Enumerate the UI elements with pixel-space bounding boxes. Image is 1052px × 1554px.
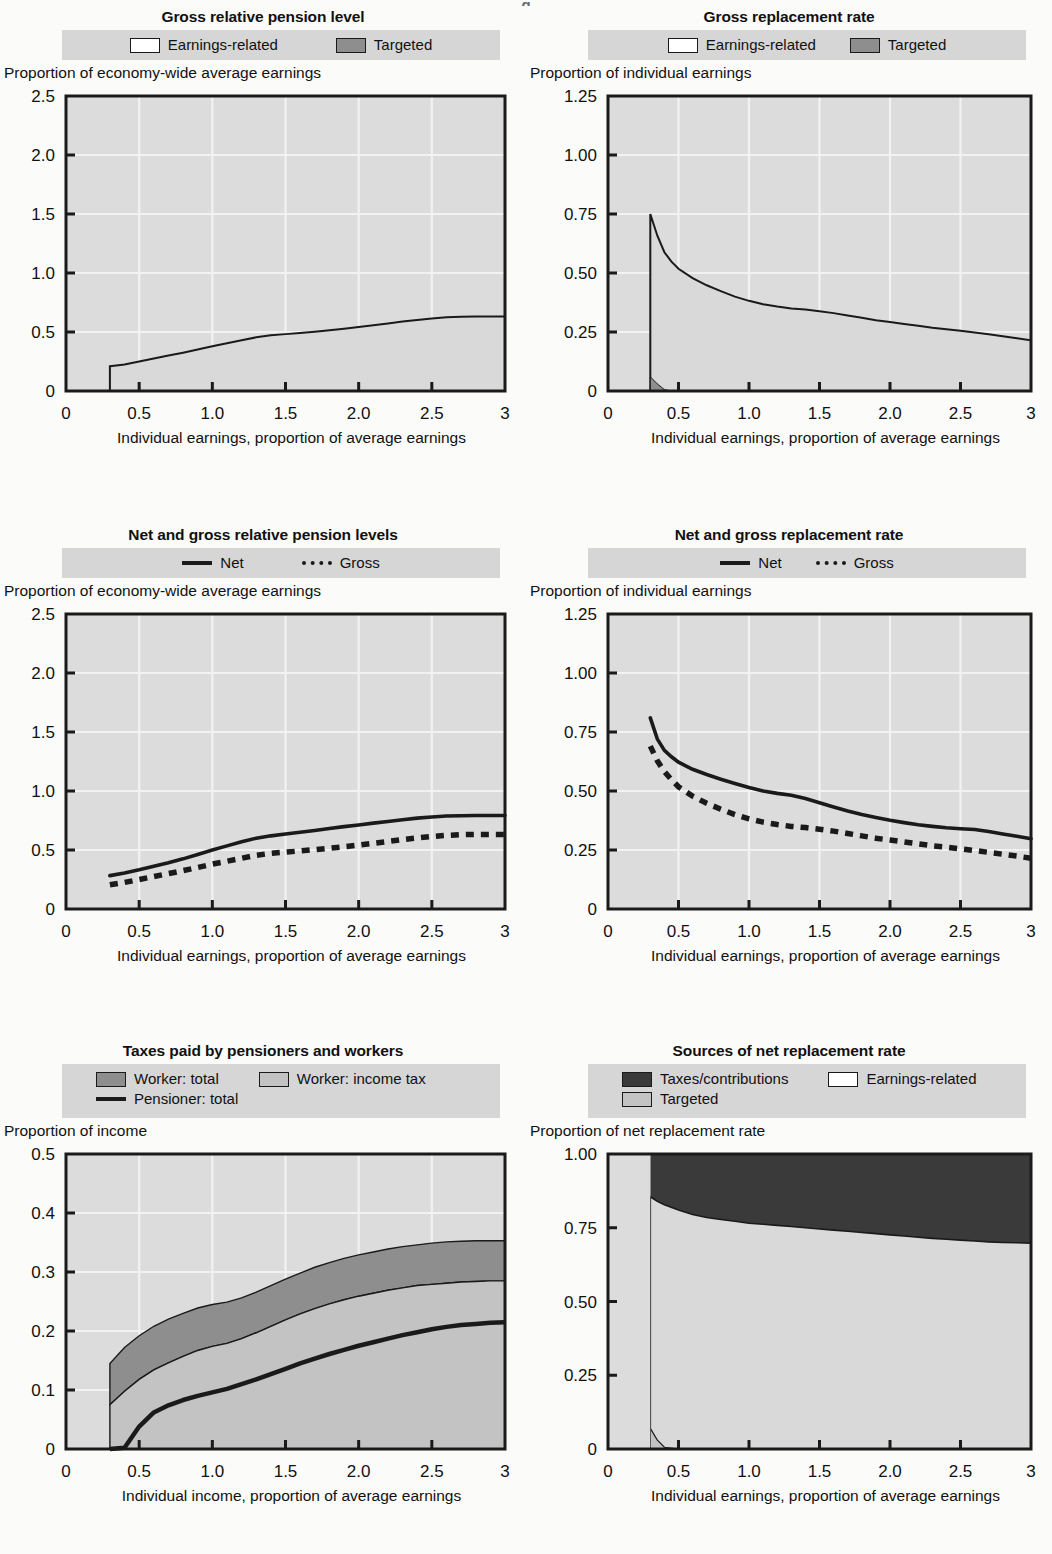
x-tick-label: 1.0 (201, 404, 225, 423)
x-axis-title: Individual earnings, proportion of avera… (117, 429, 466, 446)
x-axis-title: Individual earnings, proportion of avera… (651, 1487, 1000, 1504)
legend-label: Worker: total (134, 1069, 219, 1089)
x-tick-label: 0 (61, 404, 70, 423)
legend-item: Taxes/contributions (622, 1069, 788, 1089)
x-tick-label: 1.5 (808, 922, 832, 941)
x-tick-label: 3 (500, 1462, 509, 1481)
legend-label: Targeted (888, 35, 946, 55)
x-tick-label: 0.5 (667, 922, 691, 941)
y-tick-label: 0 (46, 382, 55, 401)
legend-item: Earnings-related (130, 35, 278, 55)
legend-swatch-icon (96, 1072, 126, 1087)
y-tick-label: 0.50 (564, 264, 597, 283)
x-tick-label: 2.5 (949, 404, 973, 423)
chart-panel-taxes-paid-by-pensioners-and-workers: Taxes paid by pensioners and workersWork… (0, 1034, 526, 1532)
y-tick-label: 0 (588, 900, 597, 919)
legend-label: Pensioner: total (134, 1089, 238, 1109)
x-tick-label: 2.5 (420, 1462, 444, 1481)
chart-plot-gross-replacement-rate: 00.250.500.751.001.2500.51.01.52.02.53In… (526, 86, 1052, 486)
y-tick-label: 0.5 (31, 1145, 55, 1164)
x-tick-label: 3 (1026, 404, 1035, 423)
y-tick-label: 0.3 (31, 1263, 55, 1282)
chart-title: Net and gross relative pension levels (0, 518, 526, 546)
legend-swatch-icon (668, 38, 698, 53)
x-tick-label: 3 (1026, 922, 1035, 941)
x-tick-label: 1.0 (201, 922, 225, 941)
x-tick-label: 2.0 (878, 404, 902, 423)
y-tick-label: 0.4 (31, 1204, 55, 1223)
x-tick-label: 0.5 (127, 404, 151, 423)
y-tick-label: 0 (46, 900, 55, 919)
y-tick-label: 1.25 (564, 605, 597, 624)
chart-panel-net-and-gross-replacement-rate: Net and gross replacement rateNetGrossPr… (526, 518, 1052, 1016)
y-tick-label: 0.25 (564, 1366, 597, 1385)
y-tick-label: 1.0 (31, 264, 55, 283)
y-axis-caption: Proportion of individual earnings (530, 64, 751, 82)
x-tick-label: 0 (61, 1462, 70, 1481)
y-tick-label: 0 (588, 382, 597, 401)
x-tick-label: 0.5 (667, 404, 691, 423)
legend-item: Gross (302, 553, 380, 573)
legend-item: Earnings-related (828, 1069, 976, 1089)
legend-dashed-line-icon (302, 561, 332, 565)
legend-item: Net (720, 553, 781, 573)
x-tick-label: 1.5 (808, 1462, 832, 1481)
y-tick-label: 0.5 (31, 841, 55, 860)
chart-plot-sources-of-net-replacement-rate: 00.250.500.751.0000.51.01.52.02.53Indivi… (526, 1144, 1052, 1544)
x-tick-label: 0.5 (127, 922, 151, 941)
x-tick-label: 1.5 (274, 1462, 298, 1481)
chart-title: Taxes paid by pensioners and workers (0, 1034, 526, 1062)
figure-page: g Gross relative pension levelEarnings-r… (0, 0, 1052, 1554)
legend-label: Gross (340, 553, 380, 573)
legend-item: Earnings-related (668, 35, 816, 55)
chart-plot-taxes-paid-by-pensioners-and-workers: 00.10.20.30.40.500.51.01.52.02.53Individ… (0, 1144, 526, 1544)
chart-panel-gross-replacement-rate: Gross replacement rateEarnings-relatedTa… (526, 0, 1052, 498)
legend-label: Gross (854, 553, 894, 573)
legend-swatch-icon (828, 1072, 858, 1087)
y-tick-label: 0 (588, 1440, 597, 1459)
chart-title: Net and gross replacement rate (526, 518, 1052, 546)
y-axis-caption: Proportion of income (4, 1122, 147, 1140)
x-tick-label: 2.5 (420, 404, 444, 423)
y-axis-caption: Proportion of economy-wide average earni… (4, 64, 321, 82)
x-tick-label: 2.5 (949, 1462, 973, 1481)
legend-swatch-icon (336, 38, 366, 53)
x-tick-label: 0 (603, 404, 612, 423)
x-tick-label: 0 (61, 922, 70, 941)
y-tick-label: 0.75 (564, 1219, 597, 1238)
y-tick-label: 2.0 (31, 146, 55, 165)
legend-item: Targeted (622, 1089, 718, 1109)
y-tick-label: 1.25 (564, 87, 597, 106)
chart-plot-gross-relative-pension-level: 00.51.01.52.02.500.51.01.52.02.53Individ… (0, 86, 526, 486)
x-axis-title: Individual earnings, proportion of avera… (651, 429, 1000, 446)
x-tick-label: 2.0 (878, 922, 902, 941)
chart-title: Gross relative pension level (0, 0, 526, 28)
x-tick-label: 1.5 (274, 922, 298, 941)
chart-legend: Earnings-relatedTargeted (62, 30, 500, 60)
x-tick-label: 1.5 (274, 404, 298, 423)
x-axis-title: Individual earnings, proportion of avera… (651, 947, 1000, 964)
legend-swatch-icon (259, 1072, 289, 1087)
x-tick-label: 2.5 (949, 922, 973, 941)
legend-label: Net (758, 553, 781, 573)
legend-label: Earnings-related (866, 1069, 976, 1089)
chart-panel-net-and-gross-relative-pension-levels: Net and gross relative pension levelsNet… (0, 518, 526, 1016)
legend-dashed-line-icon (816, 561, 846, 565)
legend-solid-line-icon (720, 561, 750, 565)
y-tick-label: 0 (46, 1440, 55, 1459)
y-tick-label: 0.75 (564, 205, 597, 224)
legend-item: Worker: total (96, 1069, 219, 1089)
x-tick-label: 2.0 (878, 1462, 902, 1481)
y-tick-label: 0.75 (564, 723, 597, 742)
chart-title: Gross replacement rate (526, 0, 1052, 28)
x-tick-label: 1.0 (737, 922, 761, 941)
y-tick-label: 0.25 (564, 841, 597, 860)
x-tick-label: 0 (603, 1462, 612, 1481)
chart-legend: Worker: totalWorker: income taxPensioner… (62, 1064, 500, 1118)
x-tick-label: 0.5 (127, 1462, 151, 1481)
x-axis-title: Individual income, proportion of average… (122, 1487, 462, 1504)
y-tick-label: 0.50 (564, 1293, 597, 1312)
x-tick-label: 1.5 (808, 404, 832, 423)
y-tick-label: 0.5 (31, 323, 55, 342)
y-tick-label: 2.5 (31, 605, 55, 624)
